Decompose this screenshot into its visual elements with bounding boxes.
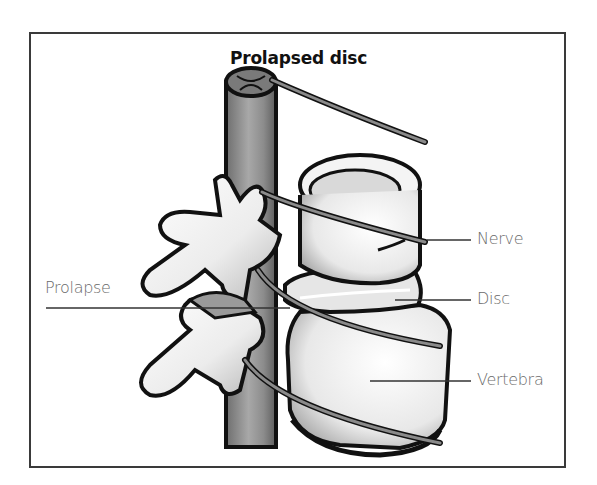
upper-vertebra: [300, 155, 420, 283]
label-prolapse: Prolapse: [45, 278, 111, 297]
label-nerve: Nerve: [477, 229, 523, 248]
label-disc: Disc: [477, 289, 510, 308]
label-vertebra: Vertebra: [477, 370, 543, 389]
